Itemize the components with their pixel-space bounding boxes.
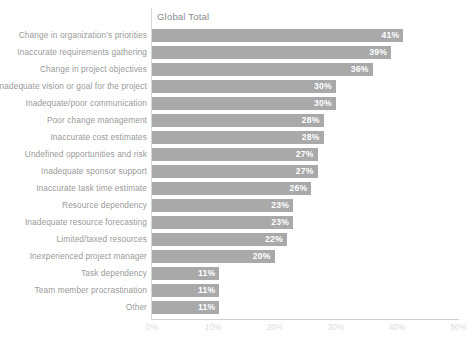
category-label: Inaccurate task time estimate [36, 182, 152, 195]
bar-chart: Global Total Change in organization's pr… [0, 0, 476, 352]
x-axis-tick-label: 20% [266, 323, 282, 332]
bar-row: Team member procrastination11% [0, 284, 476, 301]
category-label: Task dependency [81, 267, 152, 280]
bar-value-label: 36% [347, 63, 369, 76]
category-label: Other [126, 301, 152, 314]
bar[interactable] [152, 97, 336, 110]
category-label: Change in organization's priorities [19, 29, 152, 42]
bar-value-label: 23% [267, 216, 289, 229]
bar-track: 11% [152, 267, 476, 280]
bar-row: Other11% [0, 301, 476, 318]
x-axis: 0%10%20%30%40%50% [0, 321, 476, 341]
bar-row: Inaccurate task time estimate26% [0, 182, 476, 199]
bar-value-label: 28% [298, 131, 320, 144]
bar-value-label: 11% [193, 284, 215, 297]
x-axis-tick-label: 10% [205, 323, 221, 332]
bar-value-label: 27% [292, 148, 314, 161]
bar[interactable] [152, 46, 391, 59]
bar-value-label: 23% [267, 199, 289, 212]
bar[interactable] [152, 80, 336, 93]
category-label: Inexperienced project manager [30, 250, 152, 263]
category-label: Inaccurate cost estimates [50, 131, 152, 144]
bar-track: 22% [152, 233, 476, 246]
bar-track: 39% [152, 46, 476, 59]
bar-row: Poor change management28% [0, 114, 476, 131]
bar-track: 20% [152, 250, 476, 263]
bar-track: 11% [152, 301, 476, 314]
bar-value-label: 41% [377, 29, 399, 42]
bar[interactable] [152, 63, 373, 76]
category-label: Limited/taxed resources [57, 233, 152, 246]
x-axis-tick-label: 0% [146, 323, 158, 332]
series-header-global-total: Global Total [152, 9, 209, 25]
x-axis-tick-label: 30% [328, 323, 344, 332]
category-label: Inaccurate requirements gathering [17, 46, 152, 59]
bar-row: Inadequate vision or goal for the projec… [0, 80, 476, 97]
bar-track: 28% [152, 131, 476, 144]
category-label: Resource dependency [62, 199, 152, 212]
category-label: Undefined opportunities and risk [25, 148, 152, 161]
category-label: Inadequate sponsor support [41, 165, 152, 178]
bar-value-label: 30% [310, 80, 332, 93]
bar-track: 36% [152, 63, 476, 76]
category-label: Inadequate vision or goal for the projec… [0, 80, 152, 93]
bar-track: 23% [152, 216, 476, 229]
plot-area: Change in organization's priorities41%In… [0, 29, 476, 319]
bar-track: 26% [152, 182, 476, 195]
category-label: Team member procrastination [35, 284, 152, 297]
category-label: Inadequate/poor communication [26, 97, 152, 110]
category-label: Change in project objectives [40, 63, 152, 76]
bar-value-label: 28% [298, 114, 320, 127]
bar-value-label: 39% [365, 46, 387, 59]
bar-row: Inadequate sponsor support27% [0, 165, 476, 182]
bar-value-label: 26% [285, 182, 307, 195]
bar-row: Inexperienced project manager20% [0, 250, 476, 267]
bar-track: 23% [152, 199, 476, 212]
bar-value-label: 22% [261, 233, 283, 246]
bar-row: Task dependency11% [0, 267, 476, 284]
bar-track: 27% [152, 165, 476, 178]
bar-row: Inaccurate requirements gathering39% [0, 46, 476, 63]
bar[interactable] [152, 29, 403, 42]
bar-row: Change in organization's priorities41% [0, 29, 476, 46]
bar-row: Inadequate resource forecasting23% [0, 216, 476, 233]
bar-track: 30% [152, 80, 476, 93]
value-axis-line [151, 319, 459, 320]
bar-row: Limited/taxed resources22% [0, 233, 476, 250]
bar-value-label: 20% [249, 250, 271, 263]
bar-row: Change in project objectives36% [0, 63, 476, 80]
bar-row: Inadequate/poor communication30% [0, 97, 476, 114]
x-axis-tick-label: 50% [450, 323, 466, 332]
bar-value-label: 11% [193, 267, 215, 280]
bar-value-label: 11% [193, 301, 215, 314]
bar-track: 11% [152, 284, 476, 297]
bar-row: Resource dependency23% [0, 199, 476, 216]
bar-track: 27% [152, 148, 476, 161]
x-axis-tick-label: 40% [389, 323, 405, 332]
bar-row: Undefined opportunities and risk27% [0, 148, 476, 165]
bar-value-label: 27% [292, 165, 314, 178]
bar-row: Inaccurate cost estimates28% [0, 131, 476, 148]
bar-track: 30% [152, 97, 476, 110]
category-label: Inadequate resource forecasting [25, 216, 152, 229]
bar-track: 41% [152, 29, 476, 42]
bar-track: 28% [152, 114, 476, 127]
category-label: Poor change management [47, 114, 152, 127]
bar-value-label: 30% [310, 97, 332, 110]
